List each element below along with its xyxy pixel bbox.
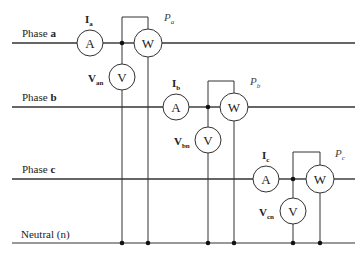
junction-dot	[120, 41, 125, 46]
ammeter-b-symbol: A	[166, 101, 186, 114]
voltmeter-b-symbol: V	[198, 134, 218, 147]
junction-dot	[291, 177, 296, 182]
ammeter-c-symbol: A	[256, 173, 276, 186]
current-c-label: Ic	[262, 150, 269, 164]
wattmeter-c-symbol: W	[310, 173, 330, 186]
voltage-cn-label: Vcn	[259, 207, 274, 221]
voltmeter-a-symbol: V	[112, 71, 132, 84]
power-c-label: Pc	[335, 148, 345, 162]
voltmeter-c-symbol: V	[283, 205, 303, 218]
junction-dot	[232, 241, 237, 246]
phase-a-label: Phase a	[22, 28, 56, 39]
junction-dot	[146, 241, 151, 246]
wattmeter-b-symbol: W	[224, 101, 244, 114]
phase-b-label: Phase b	[22, 92, 57, 103]
junction-dot	[120, 241, 125, 246]
power-b-label: Pb	[250, 76, 260, 90]
junction-dot	[318, 241, 323, 246]
voltage-an-label: Van	[88, 73, 103, 87]
voltage-bn-label: Vbn	[174, 136, 190, 150]
power-a-label: Pa	[164, 12, 174, 26]
current-a-label: Ia	[85, 14, 93, 28]
wattmeter-a-symbol: W	[138, 37, 158, 50]
junction-dot	[206, 241, 211, 246]
ammeter-a-symbol: A	[80, 37, 100, 50]
junction-dot	[291, 241, 296, 246]
junction-dot	[206, 105, 211, 110]
neutral-label: Neutral (n)	[21, 229, 70, 240]
phase-c-label: Phase c	[22, 164, 55, 175]
current-b-label: Ib	[172, 78, 180, 92]
